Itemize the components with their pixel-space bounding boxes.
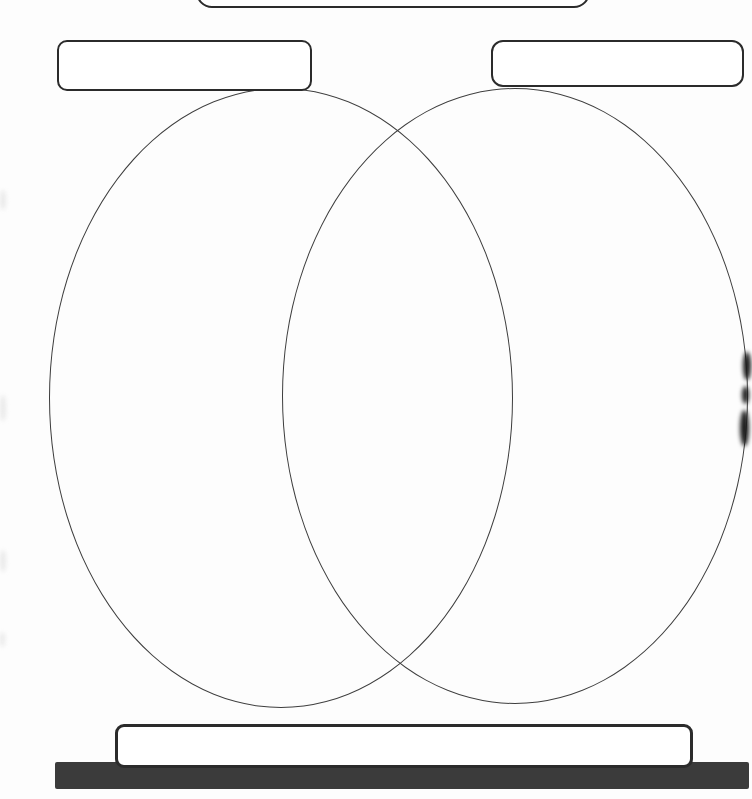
left-category-label-text <box>59 42 310 54</box>
worksheet-page <box>0 0 752 799</box>
bottom-answer-box <box>115 724 693 768</box>
scan-edge-smudge <box>0 395 6 421</box>
right-category-label-box <box>491 40 744 87</box>
title-box <box>196 0 590 8</box>
scan-edge-smudge <box>0 190 6 210</box>
scan-edge-smudge <box>0 632 5 647</box>
scan-edge-smudge <box>0 550 6 572</box>
bottom-answer-box-text <box>118 727 690 739</box>
left-category-label-box <box>57 40 312 91</box>
right-category-label-text <box>493 42 742 54</box>
venn-right-circle <box>282 88 748 704</box>
